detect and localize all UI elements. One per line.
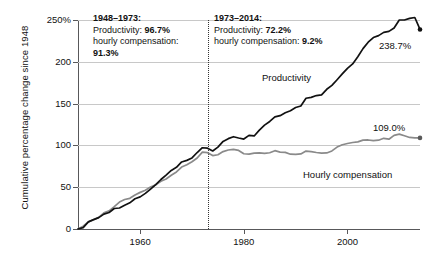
chart-figure: Cumulative percentage change since 1948 … [0,0,429,265]
endpoint-dot-productivity [418,27,423,32]
end-label-productivity: 238.7% [379,40,411,51]
annotation1-heading: 1948–1973: [93,13,179,25]
annotation2-heading: 1973–2014: [214,13,323,25]
annotation2-compensation-line: hourly compensation: 9.2% [214,36,323,48]
end-label-hourly-compensation: 109.0% [373,122,405,133]
series-label-hourly-compensation: Hourly compensation [303,169,392,180]
annotation2-productivity-line: Productivity: 72.2% [214,25,323,37]
endpoint-dot-hourly-compensation [418,136,423,141]
annotation1-compensation-value: 91.3% [93,48,179,60]
line-hourly-compensation [78,134,420,229]
annotation1-productivity-line: Productivity: 96.7% [93,25,179,37]
annotation-period-1973-2014: 1973–2014: Productivity: 72.2% hourly co… [214,13,323,48]
series-label-productivity: Productivity [262,72,311,83]
annotation-period-1948-1973: 1948–1973: Productivity: 96.7% hourly co… [93,13,179,59]
annotation1-compensation-line: hourly compensation: [93,36,179,48]
